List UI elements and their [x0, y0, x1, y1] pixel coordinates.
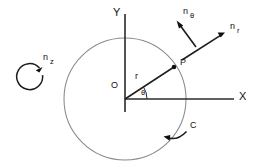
- angle-theta-label: θ: [141, 88, 145, 97]
- vector-n-r-shaft: [182, 35, 221, 60]
- vector-n-theta-label-base: n: [183, 6, 188, 16]
- vector-n-theta-label: n θ: [183, 6, 194, 20]
- pointer-to-circle-c-arrowhead: [164, 135, 171, 141]
- polar-coordinate-diagram: Y X O P r θ C n θ n r n z: [0, 0, 261, 168]
- circle-c-label: C: [190, 120, 197, 130]
- spin-arrow-n-z-arc: [17, 64, 43, 90]
- diagram-canvas: Y X O P r θ C n θ n r n z: [0, 0, 261, 168]
- vector-n-r-label-base: n: [230, 21, 235, 31]
- x-axis-label: X: [239, 90, 247, 102]
- radius-line-op: [125, 67, 174, 99]
- vector-n-r-label: n r: [230, 21, 240, 35]
- spin-arrow-n-z-label-subscript: z: [50, 57, 54, 66]
- spin-arrow-n-z-label-base: n: [43, 52, 48, 62]
- radius-label: r: [135, 71, 138, 81]
- point-p-marker: [172, 65, 177, 70]
- vector-n-r-label-subscript: r: [237, 26, 240, 35]
- point-p-label: P: [180, 57, 186, 67]
- spin-arrow-n-z: [17, 64, 43, 90]
- vector-n-theta-shaft: [180, 25, 197, 48]
- pointer-to-circle-c-arc: [168, 132, 187, 139]
- pointer-to-circle-c: [164, 132, 187, 141]
- origin-label: O: [111, 80, 118, 90]
- y-axis-label: Y: [113, 6, 121, 18]
- vector-n-theta: [177, 21, 196, 48]
- spin-arrow-n-z-label: n z: [43, 52, 54, 66]
- vector-n-theta-label-subscript: θ: [190, 11, 194, 20]
